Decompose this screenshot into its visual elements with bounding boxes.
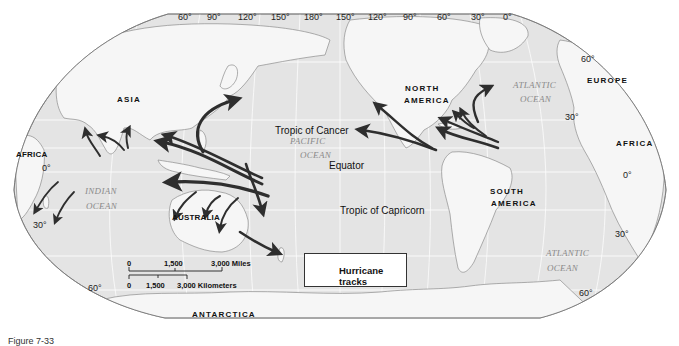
lon-label: 90° — [403, 12, 417, 22]
lat-label: 60° — [579, 288, 593, 298]
label-africa-west: AFRICA — [16, 150, 47, 159]
lon-label: 150° — [336, 12, 355, 22]
label-atlantic-ocean-north: OCEAN — [520, 94, 551, 104]
label-equator: Equator — [329, 160, 364, 171]
legend-label: Hurricane tracks — [339, 265, 406, 287]
label-north-america: NORTH — [405, 84, 439, 93]
label-antarctica: ANTARCTICA — [192, 310, 256, 319]
lon-label: 60° — [178, 12, 192, 22]
label-south-america: SOUTH — [490, 187, 524, 196]
scale-miles-1500: 1,500 — [164, 259, 183, 268]
lon-label: 30° — [471, 12, 485, 22]
lon-label: 90° — [207, 12, 221, 22]
lat-label: 60° — [88, 283, 102, 293]
label-indian-ocean: OCEAN — [86, 201, 117, 211]
label-atlantic-ocean-south: OCEAN — [547, 263, 578, 273]
label-indian-ocean: INDIAN — [85, 186, 117, 196]
label-north-america: AMERICA — [404, 96, 450, 105]
scale-miles-0: 0 — [127, 259, 131, 268]
scale-km-1500: 1,500 — [146, 281, 165, 290]
lat-label: 0° — [623, 170, 632, 180]
lat-label: 30° — [565, 112, 579, 122]
label-asia: ASIA — [117, 95, 141, 104]
lat-label: 30° — [33, 220, 47, 230]
lat-label: 60° — [581, 54, 595, 64]
label-europe: EUROPE — [587, 76, 628, 85]
lat-label: 0° — [42, 163, 51, 173]
label-africa-east: AFRICA — [616, 139, 653, 148]
label-tropic-of-capricorn: Tropic of Capricorn — [340, 205, 425, 216]
lon-label: 150° — [271, 12, 290, 22]
figure-caption: Figure 7-33 — [8, 336, 54, 346]
lon-label: 0° — [503, 12, 512, 22]
lon-label: 60° — [437, 12, 451, 22]
scale-km-0: 0 — [127, 281, 131, 290]
legend-box: Hurricane tracks — [304, 253, 407, 287]
scale-km-3000: 3,000 Kilometers — [177, 281, 237, 290]
lon-label: 180° — [304, 12, 323, 22]
label-south-america: AMERICA — [491, 199, 537, 208]
label-australia: AUSTRALIA — [172, 213, 220, 222]
label-pacific-ocean: OCEAN — [300, 150, 331, 160]
lon-label: 120° — [368, 12, 387, 22]
lon-label: 120° — [238, 12, 257, 22]
lat-label: 30° — [615, 229, 629, 239]
label-atlantic-ocean-south: ATLANTIC — [546, 248, 589, 258]
scale-miles-3000: 3,000 Miles — [211, 259, 251, 268]
label-tropic-of-cancer: Tropic of Cancer — [275, 125, 349, 136]
label-pacific-ocean: PACIFIC — [290, 136, 325, 146]
label-atlantic-ocean-north: ATLANTIC — [513, 80, 556, 90]
